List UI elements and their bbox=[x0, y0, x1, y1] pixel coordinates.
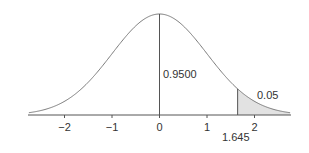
x-tick-label: 0 bbox=[156, 121, 162, 133]
x-tick-label: 1 bbox=[204, 121, 210, 133]
x-tick-label: −1 bbox=[106, 121, 119, 133]
critical-value-label: 1.645 bbox=[222, 131, 250, 143]
area-label-0.9500: 0.9500 bbox=[163, 68, 197, 80]
normal-distribution-chart: −2−1012 0.9500 0.05 1.645 bbox=[0, 0, 309, 153]
tail-area-label: 0.05 bbox=[257, 89, 278, 101]
x-tick-label: 2 bbox=[251, 121, 257, 133]
x-tick-label: −2 bbox=[58, 121, 71, 133]
